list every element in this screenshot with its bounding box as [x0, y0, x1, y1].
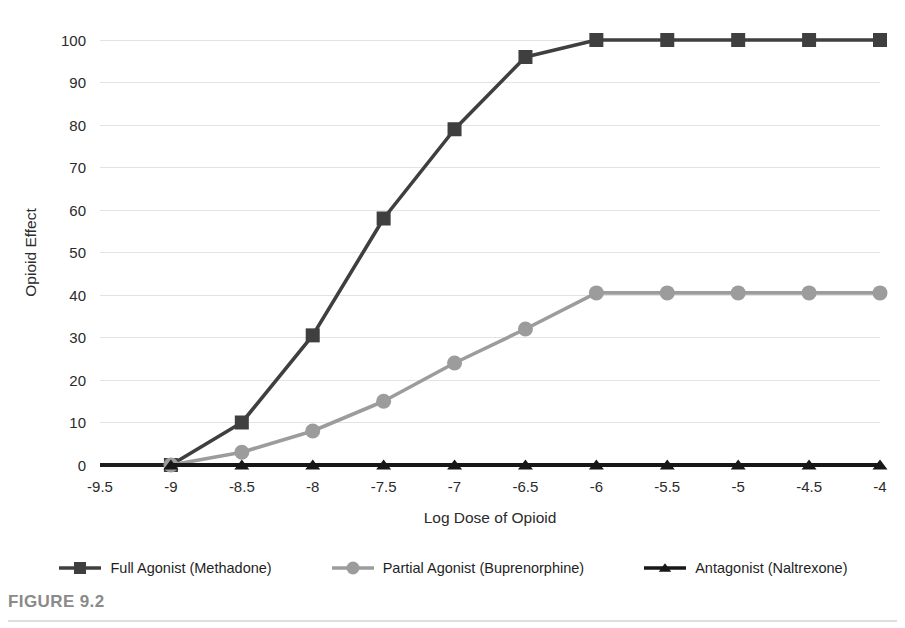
data-point-marker — [306, 328, 320, 342]
data-point-marker — [234, 445, 249, 460]
x-tick-label: -4.5 — [796, 478, 822, 495]
data-point-marker — [589, 33, 603, 47]
figure-caption: FIGURE 9.2 — [8, 592, 105, 612]
data-point-marker — [802, 285, 817, 300]
y-tick-label: 0 — [78, 457, 86, 474]
x-tick-label: -7 — [448, 478, 461, 495]
x-tick-label: -5.5 — [654, 478, 680, 495]
x-tick-label: -8 — [306, 478, 319, 495]
data-point-marker — [518, 50, 532, 64]
y-tick-label: 20 — [69, 372, 86, 389]
data-point-marker — [802, 33, 816, 47]
y-tick-label: 60 — [69, 202, 86, 219]
legend-entry[interactable]: Full Agonist (Methadone) — [57, 560, 271, 576]
y-tick-label: 70 — [69, 159, 86, 176]
chart-legend: Full Agonist (Methadone)Partial Agonist … — [0, 548, 905, 588]
data-point-marker — [731, 33, 745, 47]
y-tick-label: 90 — [69, 74, 86, 91]
y-axis-tick-labels: 0102030405060708090100 — [61, 32, 86, 474]
legend-square-marker-icon — [57, 560, 103, 576]
y-tick-label: 40 — [69, 287, 86, 304]
x-tick-label: -8.5 — [229, 478, 255, 495]
legend-circle-marker-icon — [330, 560, 376, 576]
legend-entry[interactable]: Partial Agonist (Buprenorphine) — [330, 560, 585, 576]
gridlines-group — [100, 40, 880, 465]
caption-block: FIGURE 9.2 — [0, 592, 905, 628]
chart-plot-area: 0102030405060708090100 -9.5-9-8.5-8-7.5-… — [0, 0, 905, 545]
x-tick-label: -4 — [873, 478, 886, 495]
data-point-marker — [873, 33, 887, 47]
x-tick-label: -6 — [590, 478, 603, 495]
x-tick-label: -6.5 — [513, 478, 539, 495]
y-tick-label: 30 — [69, 329, 86, 346]
data-point-marker — [660, 285, 675, 300]
data-point-marker — [377, 212, 391, 226]
y-tick-label: 100 — [61, 32, 86, 49]
dose-response-chart: 0102030405060708090100 -9.5-9-8.5-8-7.5-… — [0, 0, 905, 545]
x-axis-title: Log Dose of Opioid — [424, 509, 557, 526]
legend-entry[interactable]: Antagonist (Naltrexone) — [642, 560, 847, 576]
data-point-marker — [376, 394, 391, 409]
y-tick-label: 80 — [69, 117, 86, 134]
x-tick-label: -7.5 — [371, 478, 397, 495]
x-axis-tick-labels: -9.5-9-8.5-8-7.5-7-6.5-6-5.5-5-4.5-4 — [87, 478, 887, 495]
series-3 — [163, 459, 887, 469]
legend-triangle-marker-icon — [642, 560, 688, 576]
legend-label: Partial Agonist (Buprenorphine) — [383, 560, 585, 576]
legend-label: Full Agonist (Methadone) — [110, 560, 271, 576]
data-point-marker — [448, 122, 462, 136]
figure-container: 0102030405060708090100 -9.5-9-8.5-8-7.5-… — [0, 0, 905, 628]
x-tick-label: -5 — [732, 478, 745, 495]
caption-divider — [8, 620, 897, 622]
data-point-marker — [660, 33, 674, 47]
data-point-marker — [873, 285, 888, 300]
x-tick-label: -9 — [164, 478, 177, 495]
y-axis-title: Opioid Effect — [22, 208, 39, 297]
data-point-marker — [235, 416, 249, 430]
legend-label: Antagonist (Naltrexone) — [695, 560, 847, 576]
x-tick-label: -9.5 — [87, 478, 113, 495]
series-2 — [163, 285, 887, 472]
data-point-marker — [731, 285, 746, 300]
data-point-marker — [305, 424, 320, 439]
data-point-marker — [589, 285, 604, 300]
data-point-marker — [518, 322, 533, 337]
data-point-marker — [447, 356, 462, 371]
y-tick-label: 10 — [69, 414, 86, 431]
y-tick-label: 50 — [69, 244, 86, 261]
